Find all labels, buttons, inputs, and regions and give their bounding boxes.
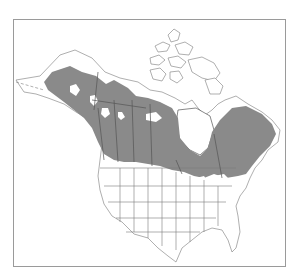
species-range	[44, 66, 276, 178]
arctic-archipelago	[150, 29, 223, 94]
north-america-map	[0, 0, 300, 277]
